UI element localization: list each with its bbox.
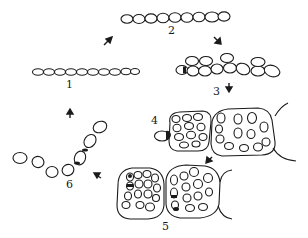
arrow-6-to-1: [67, 109, 73, 118]
stage-6-filament: [13, 119, 109, 178]
stage-label-3: 3: [213, 86, 220, 97]
stage-2-filament: [121, 12, 230, 24]
arrow-5-to-6: [94, 173, 101, 178]
stage-1-filament: [33, 68, 140, 75]
stage-label-1: 1: [66, 79, 73, 90]
arrow-1-to-2: [104, 37, 112, 45]
arrow-3-to-4: [226, 83, 232, 92]
stage-3-filament: [176, 54, 281, 79]
stage-label-5: 5: [162, 221, 169, 232]
stage-5-colonies: [117, 165, 232, 219]
stage-label-4: 4: [151, 115, 158, 126]
stage-label-2: 2: [168, 25, 175, 36]
arrow-2-to-3: [214, 37, 221, 44]
stage-4-colonies: [155, 103, 297, 161]
arrow-4-to-5: [206, 157, 212, 163]
stage-label-6: 6: [66, 179, 73, 190]
